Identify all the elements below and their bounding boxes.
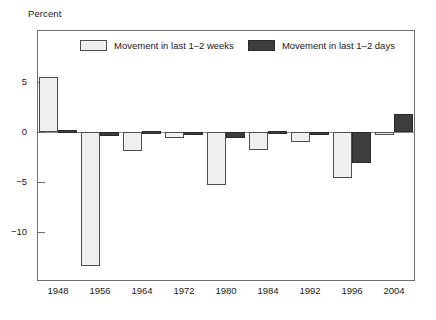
bar-1980-series1: [207, 132, 226, 185]
bar-1996-series2: [352, 132, 371, 163]
bar-1980-series2: [226, 132, 245, 138]
bar-1956-series2: [100, 132, 119, 136]
bar-1956-series1: [81, 132, 100, 266]
bar-1948-series1: [39, 77, 58, 132]
legend-label-days: Movement in last 1–2 days: [282, 41, 395, 51]
y-axis-title: Percent: [28, 8, 61, 19]
y-tick-neg5: −5: [0, 182, 37, 183]
legend-swatch-light-icon: [80, 40, 107, 51]
y-tick-mark: [37, 232, 45, 233]
bar-1964-series2: [142, 131, 161, 134]
bar-1984-series1: [249, 132, 268, 150]
y-tick-label: 5: [0, 77, 27, 87]
legend-label-weeks: Movement in last 1–2 weeks: [114, 41, 234, 51]
bar-2004-series1: [375, 132, 394, 135]
y-tick-mark: [37, 182, 45, 183]
legend-swatch-dark-icon: [248, 40, 275, 51]
y-tick-label: −10: [0, 227, 27, 237]
bar-1984-series2: [268, 131, 287, 134]
y-tick-neg10: −10: [0, 232, 37, 233]
bar-1996-series1: [333, 132, 352, 178]
y-tick-5: 5: [0, 82, 37, 83]
bar-1972-series2: [184, 132, 203, 135]
bar-2004-series2: [394, 114, 413, 132]
bar-1972-series1: [165, 132, 184, 138]
y-tick-label: −5: [0, 177, 27, 187]
bar-1992-series2: [310, 132, 329, 135]
legend-item-days[interactable]: Movement in last 1–2 days: [248, 40, 395, 51]
y-tick-label: 0: [0, 127, 27, 137]
bar-1964-series1: [123, 132, 142, 151]
x-label-2004: 2004: [369, 286, 419, 296]
y-tick-0: 0: [0, 132, 37, 133]
y-tick-mark: [37, 132, 45, 133]
chart-legend: Movement in last 1–2 weeks Movement in l…: [80, 40, 395, 51]
bar-1948-series2: [58, 130, 77, 133]
chart-figure: Percent 50−5−10 194819561964197219801984…: [0, 0, 436, 320]
bar-1992-series1: [291, 132, 310, 142]
legend-item-weeks[interactable]: Movement in last 1–2 weeks: [80, 40, 234, 51]
